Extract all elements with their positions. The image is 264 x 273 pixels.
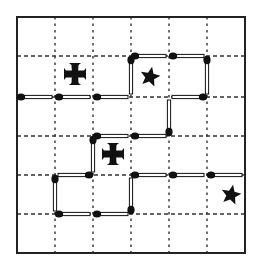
matchstick[interactable] bbox=[203, 56, 210, 94]
matchstick-head bbox=[131, 171, 139, 178]
matchstick-head bbox=[207, 171, 215, 178]
symbols-layer bbox=[64, 63, 241, 205]
matchstick[interactable] bbox=[169, 52, 204, 59]
matchstick-head bbox=[85, 171, 93, 178]
matchstick[interactable] bbox=[55, 93, 90, 100]
matchstick[interactable] bbox=[207, 171, 242, 178]
matchstick[interactable] bbox=[131, 132, 166, 139]
matchstick-head bbox=[89, 136, 96, 144]
matchstick[interactable] bbox=[131, 52, 166, 59]
star-icon bbox=[141, 67, 161, 87]
matchstick[interactable] bbox=[172, 93, 207, 100]
matchstick[interactable] bbox=[51, 175, 58, 211]
matchstick-head bbox=[55, 93, 63, 100]
matchstick-head bbox=[17, 93, 25, 100]
matchstick[interactable] bbox=[55, 210, 90, 217]
matchstick-head bbox=[93, 93, 101, 100]
matchstick-head bbox=[131, 132, 139, 139]
matchstick-head bbox=[55, 210, 63, 217]
matchstick[interactable] bbox=[169, 171, 204, 178]
matchstick-head bbox=[169, 171, 177, 178]
matchstick[interactable] bbox=[131, 171, 166, 178]
matchstick[interactable] bbox=[58, 171, 93, 178]
star-icon bbox=[222, 185, 242, 205]
cross-pattee-icon bbox=[102, 143, 124, 165]
matchstick-head bbox=[93, 210, 101, 217]
matchstick-head bbox=[127, 206, 134, 214]
matchstick[interactable] bbox=[17, 93, 52, 100]
matchstick[interactable] bbox=[93, 93, 128, 100]
matchstick-body bbox=[205, 59, 208, 94]
matchstick-head bbox=[51, 175, 58, 183]
matchstick-head bbox=[169, 52, 177, 59]
matchstick[interactable] bbox=[127, 178, 134, 214]
matchsticks-layer bbox=[17, 52, 242, 217]
matchstick[interactable] bbox=[89, 136, 96, 172]
matchstick[interactable] bbox=[93, 210, 128, 217]
matchstick-head bbox=[131, 52, 139, 59]
matchstick[interactable] bbox=[165, 100, 172, 136]
matchstick[interactable] bbox=[127, 56, 134, 94]
matchstick[interactable] bbox=[93, 132, 128, 139]
matchstick-head bbox=[203, 56, 210, 64]
matchstick-head bbox=[199, 93, 207, 100]
matchstick-body bbox=[129, 59, 132, 94]
matchstick-puzzle bbox=[0, 0, 264, 273]
cross-pattee-icon bbox=[64, 63, 86, 85]
